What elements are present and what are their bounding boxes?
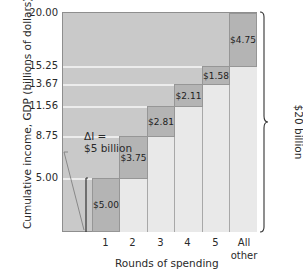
bar-label-all-other: $4.75 [230,35,256,45]
bar-all-other: $4.75 [229,13,257,67]
y-tick-5: 5.00 [36,173,58,183]
cumulative-col-all-other [229,67,257,232]
y-axis-title: Cumulative income, GDP (billions of doll… [21,19,33,229]
bar-round-4: $2.11 [174,84,203,107]
x-tick-2: 2 [119,237,146,248]
cumulative-col-3 [147,137,176,232]
x-tick-3: 3 [147,237,174,248]
cumulative-col-4 [174,107,203,232]
x-tick-other: other [228,250,260,261]
cumulative-col-5 [202,85,231,232]
y-tick-13-67: 13.67 [29,79,58,89]
y-tick-15-25: 15.25 [29,61,58,71]
bar-label-2: $3.75 [121,153,147,163]
y-tick-8-75: 8.75 [36,131,58,141]
delta-gdp-line2: $20 billion [293,77,303,187]
delta-gdp-annotation: ΔGDP = $20 billion [293,77,303,187]
y-tick-20: 20.00 [29,8,58,18]
x-tick-all: All [228,237,260,248]
delta-i-annotation: ΔI = $5 billion [84,130,132,154]
delta-gdp-brace-icon [259,11,269,233]
delta-i-line2: $5 billion [84,142,132,154]
bar-label-3: $2.81 [148,117,174,127]
bar-round-3: $2.81 [147,106,175,137]
cumulative-col-2 [119,179,148,232]
x-tick-5: 5 [202,237,229,248]
x-tick-1: 1 [92,237,119,248]
bar-label-5: $1.58 [203,71,229,81]
x-tick-4: 4 [174,237,201,248]
delta-i-bracket-icon [60,140,100,235]
y-tick-11-56: 11.56 [29,101,58,111]
x-axis-title: Rounds of spending [115,257,219,269]
delta-i-line1: ΔI = [84,130,132,142]
bar-round-5: $1.58 [202,66,230,85]
bar-label-4: $2.11 [176,91,202,101]
x-tick-all-other: All other [228,237,260,261]
